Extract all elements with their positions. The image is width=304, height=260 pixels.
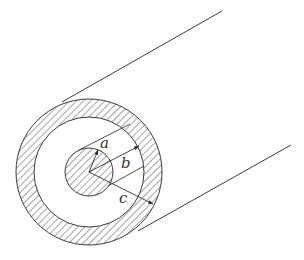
label-a: a <box>100 134 109 152</box>
label-c: c <box>119 189 128 207</box>
coaxial-cable-diagram: a b c <box>0 0 304 260</box>
diagram-canvas: a b c <box>0 0 304 260</box>
label-b: b <box>121 154 131 172</box>
tube-upper-edge <box>62 11 222 102</box>
